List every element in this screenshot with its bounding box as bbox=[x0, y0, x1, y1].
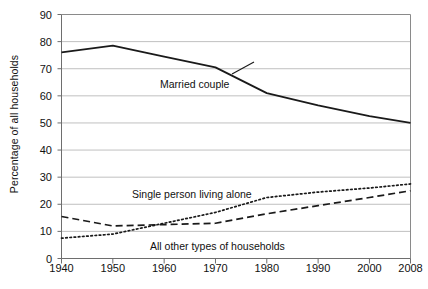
series-annotation-label: All other types of households bbox=[150, 240, 285, 252]
series-line-1 bbox=[62, 46, 411, 123]
series-annotation-label: Single person living alone bbox=[132, 188, 252, 200]
line-chart: Percentage of all households 01020304050… bbox=[0, 0, 428, 289]
annotation-leader-line bbox=[232, 62, 254, 74]
series-annotation-label: Married couple bbox=[160, 78, 229, 90]
